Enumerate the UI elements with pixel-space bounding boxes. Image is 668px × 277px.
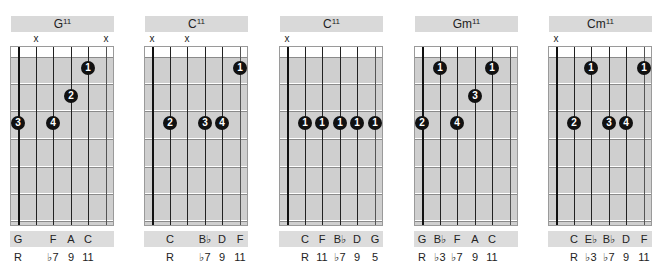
chord-diagram: C11xx1234CB♭DFR♭7911 [144,0,254,277]
muted-string-marker: x [182,33,192,45]
finger-dot: 1 [637,61,651,75]
guitar-string [170,47,171,225]
guitar-string [36,47,37,225]
nut [415,47,517,56]
chord-name: G [54,17,63,31]
chord-title: G11 [11,16,114,32]
interval-label: R [565,249,583,265]
guitar-string [556,47,558,225]
chord-title: C11 [145,16,248,32]
fret-line [11,138,113,139]
note-name: D [348,231,366,247]
finger-dot: 1 [233,61,247,75]
note-name: C [483,231,501,247]
guitar-string [222,47,223,225]
fret-line [415,56,517,57]
guitar-string [187,47,188,225]
nut [145,47,247,56]
finger-dot: 2 [567,116,581,130]
chord-title: Gm11 [415,16,518,32]
finger-dot: 2 [415,116,429,130]
fret-line [280,220,382,221]
fretboard [10,46,114,226]
interval-label: 11 [635,249,653,265]
guitar-string [457,47,458,225]
guitar-string [305,47,306,225]
fret-line [145,110,247,111]
finger-dot: 1 [584,61,598,75]
fret-line [415,220,517,221]
fret-line [549,220,651,221]
intervals-row: R♭3♭7911 [548,249,652,265]
nut [280,47,382,56]
fret-line [549,83,651,84]
note-name: G [413,231,431,247]
guitar-string [205,47,206,225]
intervals-row: R11♭795 [279,249,383,265]
guitar-string [626,47,627,225]
note-names-row: GB♭FAC [414,231,518,247]
finger-dot: 4 [215,116,229,130]
interval-label: ♭3 [582,249,600,265]
note-name: F [635,231,653,247]
guitar-string [322,47,323,225]
fret-line [145,138,247,139]
fret-line [145,83,247,84]
note-name: F [231,231,249,247]
finger-dot: 3 [602,116,616,130]
fret-line [280,193,382,194]
note-name: B♭ [600,231,618,247]
interval-label: ♭3 [431,249,449,265]
note-names-row: GFAC [10,231,114,247]
nut [549,47,651,56]
fret-line [280,110,382,111]
note-names-row: CB♭DF [144,231,248,247]
fret-line [549,193,651,194]
intervals-row: R♭7911 [144,249,248,265]
interval-label: 9 [466,249,484,265]
muted-string-marker: x [147,33,157,45]
fret-line [415,166,517,167]
chord-diagram: Gm1111324GB♭FACR♭3♭7911 [414,0,524,277]
fret-line [415,138,517,139]
guitar-string [287,47,289,225]
interval-label: 11 [483,249,501,265]
finger-dot: 1 [315,116,329,130]
guitar-string [18,47,20,225]
note-name: G [9,231,27,247]
guitar-string [152,47,154,225]
interval-label: ♭7 [448,249,466,265]
muted-string-marker: x [282,33,292,45]
fret-line [11,56,113,57]
guitar-string [609,47,610,225]
interval-label: 9 [617,249,635,265]
chord-extension: 11 [197,17,205,26]
fret-line [11,193,113,194]
note-name: C [161,231,179,247]
note-name: A [466,231,484,247]
chord-diagram: Cm11x11234CE♭B♭DFR♭3♭7911 [548,0,658,277]
interval-label: ♭7 [196,249,214,265]
fret-line [145,193,247,194]
interval-label: 11 [231,249,249,265]
guitar-string [574,47,575,225]
fret-line [145,56,247,57]
finger-dot: 4 [46,116,60,130]
muted-string-marker: x [31,33,41,45]
interval-label: ♭7 [44,249,62,265]
finger-dot: 4 [619,116,633,130]
interval-label: 5 [366,249,384,265]
note-name: A [62,231,80,247]
finger-dot: 3 [11,116,25,130]
note-name: F [448,231,466,247]
note-name: C [79,231,97,247]
chord-extension: 11 [472,17,480,26]
fret-line [11,83,113,84]
note-name: C [296,231,314,247]
finger-dot: 1 [333,116,347,130]
fret-line [415,83,517,84]
fret-line [145,220,247,221]
fretboard [144,46,248,226]
chord-extension: 11 [332,17,340,26]
note-names-row: CFB♭DG [279,231,383,247]
